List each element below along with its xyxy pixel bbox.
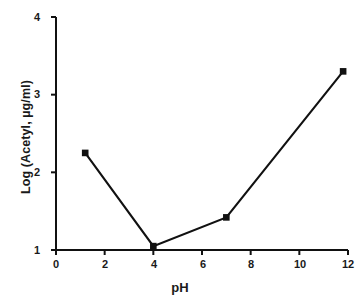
x-tick-label-4: 4: [144, 258, 164, 270]
x-tick-label-8: 8: [241, 258, 261, 270]
y-tick-label-3: 3: [26, 88, 40, 100]
data-point-marker: [223, 214, 230, 221]
x-axis-label: pH: [0, 280, 360, 295]
x-tick-label-0: 0: [46, 258, 66, 270]
data-point-marker: [150, 243, 157, 250]
data-point-marker: [340, 68, 347, 75]
chart-figure: Log (Acetyl, µg/ml) pH 4 3 2 1 0 2 4 6 8…: [0, 0, 360, 304]
y-axis-label: Log (Acetyl, µg/ml): [19, 37, 33, 237]
data-line: [85, 71, 343, 246]
x-tick-label-10: 10: [290, 258, 310, 270]
data-point-marker: [82, 150, 89, 157]
axes: [56, 17, 348, 250]
x-tick-label-12: 12: [338, 258, 358, 270]
x-tick-label-2: 2: [95, 258, 115, 270]
y-tick-label-4: 4: [26, 11, 40, 23]
x-tick-label-6: 6: [193, 258, 213, 270]
y-tick-label-2: 2: [26, 166, 40, 178]
y-tick-label-1: 1: [26, 244, 40, 256]
